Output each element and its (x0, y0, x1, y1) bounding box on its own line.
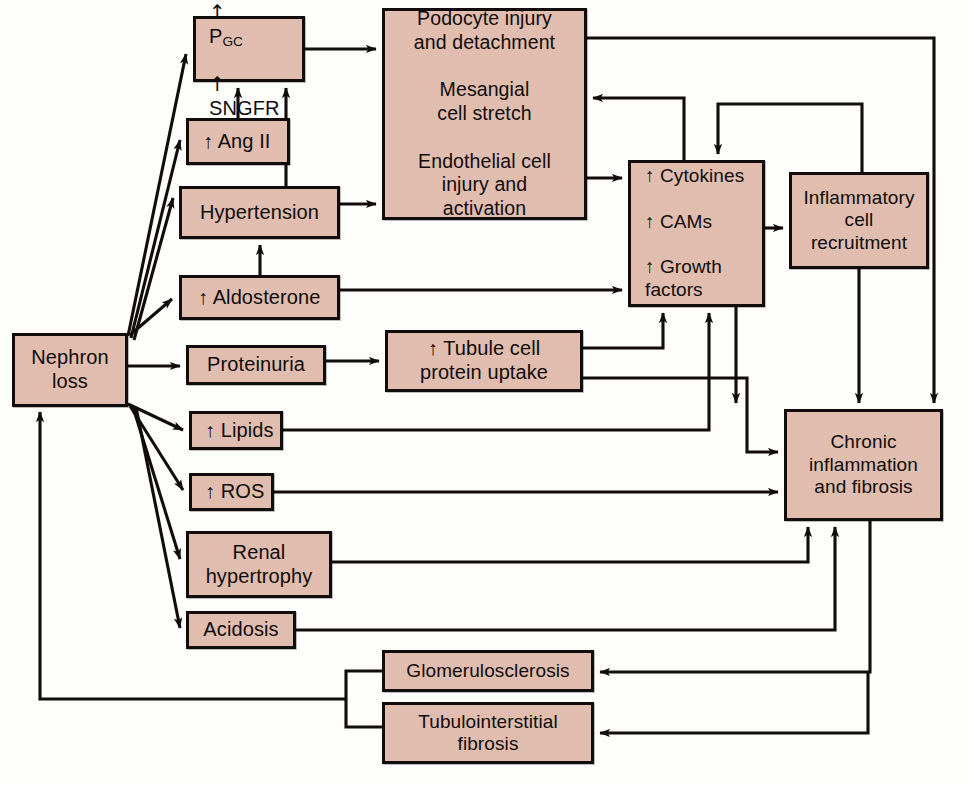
node-cytokines-label: ↑ Cytokines ↑ CAMs ↑ Growth factors (641, 165, 748, 302)
edge-nephron-pgc (128, 54, 186, 336)
node-ros[interactable]: ↑ ROS (189, 473, 274, 511)
node-hypertension-label: Hypertension (196, 201, 323, 225)
node-tubulointerstitial-fibrosis[interactable]: Tubulointerstitial fibrosis (382, 702, 594, 764)
node-renal-hypertrophy[interactable]: Renal hypertrophy (186, 531, 332, 598)
node-pgc-sngfr[interactable]: ↑ PGC ↑ SNGFR (193, 16, 305, 82)
node-podocyte-injury[interactable]: Podocyte injury and detachment Mesangial… (382, 8, 587, 220)
up-arrow-icon-2: ↑ (209, 72, 226, 96)
node-tubule-protein-uptake[interactable]: ↑ Tubule cell protein uptake (385, 330, 583, 392)
node-proteinuria[interactable]: Proteinuria (186, 345, 326, 385)
node-cytokines-cams-growth[interactable]: ↑ Cytokines ↑ CAMs ↑ Growth factors (628, 160, 765, 307)
node-tubulointerstitial-fibrosis-label: Tubulointerstitial fibrosis (414, 711, 561, 756)
node-pgc-sngfr-label: ↑ PGC ↑ SNGFR (205, 0, 284, 121)
pgc-subscript: GC (222, 34, 242, 49)
node-lipids-label: ↑ Lipids (201, 419, 278, 443)
flowchart-canvas: Nephron loss ↑ PGC ↑ SNGFR ↑ Ang II Hype… (0, 0, 969, 785)
node-nephron-loss-label: Nephron loss (27, 346, 112, 393)
node-acidosis-label: Acidosis (199, 618, 282, 642)
node-tubule-protein-uptake-label: ↑ Tubule cell protein uptake (416, 337, 552, 384)
node-aldosterone[interactable]: ↑ Aldosterone (179, 275, 340, 320)
node-ros-label: ↑ ROS (201, 480, 268, 504)
node-glomerulosclerosis-label: Glomerulosclerosis (402, 660, 573, 682)
node-acidosis[interactable]: Acidosis (186, 611, 296, 649)
node-glomerulosclerosis[interactable]: Glomerulosclerosis (382, 650, 594, 692)
node-chronic-label: Chronic inflammation and fibrosis (805, 431, 922, 498)
edge-nephron-angii (131, 140, 180, 338)
edge-acidosis-chronic (296, 527, 835, 630)
node-inflammatory-cell-recruitment[interactable]: Inflammatory cell recruitment (789, 172, 929, 269)
node-renal-hypertrophy-label: Renal hypertrophy (202, 541, 317, 588)
edge-chronic-tif (600, 672, 868, 733)
node-ang-ii[interactable]: ↑ Ang II (186, 118, 290, 165)
up-arrow-icon: ↑ (209, 0, 226, 24)
node-podocyte-injury-label: Podocyte injury and detachment Mesangial… (410, 7, 559, 221)
edge-chronic-tubulointerstitial (600, 672, 870, 733)
node-ang-ii-label: ↑ Ang II (199, 130, 275, 154)
edge-nephron-acidosis (136, 407, 180, 628)
edge-tubule-cytokines (583, 313, 663, 348)
edge-cytokines-podocyte (593, 98, 684, 160)
node-inflammatory-label: Inflammatory cell recruitment (799, 187, 918, 254)
node-aldosterone-label: ↑ Aldosterone (194, 286, 325, 310)
node-chronic-inflammation-fibrosis[interactable]: Chronic inflammation and fibrosis (784, 409, 943, 521)
edge-sclerosis-join (346, 671, 382, 727)
node-hypertension[interactable]: Hypertension (179, 186, 340, 239)
node-nephron-loss[interactable]: Nephron loss (12, 333, 128, 407)
edge-tubule-chronic (583, 378, 778, 452)
node-lipids[interactable]: ↑ Lipids (189, 411, 283, 450)
edge-renalhyp-chronic (332, 527, 808, 562)
node-proteinuria-label: Proteinuria (203, 353, 309, 377)
edge-chronic-glomerulosclerosis (600, 521, 870, 672)
